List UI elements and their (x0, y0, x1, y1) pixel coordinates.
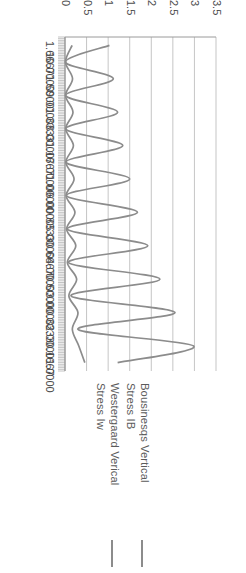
value-tick-label: 2 (146, 0, 158, 32)
value-tick-label: 1.5 (125, 0, 137, 32)
plot-area: 1.00000.16672.00000.33333.00000.50004.00… (0, 0, 246, 377)
value-tick-label: 0.5 (82, 0, 94, 32)
legend-swatch-boussinesq (141, 540, 144, 567)
category-axis-ticks (58, 37, 65, 371)
legend-label-boussinesq-line2: Stress IB (125, 383, 137, 533)
legend-swatch-westergaard (111, 540, 114, 567)
value-tick-label: 3 (189, 0, 201, 32)
plot-svg (0, 0, 246, 377)
legend-label-boussinesq-line1: Bousinesqs Vertical (139, 383, 151, 533)
value-tick-label: 1 (103, 0, 115, 32)
chart-figure: Bousinesqs Vertical Stress IB Westergaar… (0, 0, 246, 573)
legend-label-westergaard-line2: Stress Iw (95, 383, 107, 533)
value-tick-label: 2.5 (168, 0, 180, 32)
value-tick-label: 3.5 (211, 0, 223, 32)
value-tick-label: 0 (60, 0, 72, 32)
chart-legend: Bousinesqs Vertical Stress IB Westergaar… (0, 377, 246, 573)
category-tick-label: 1.6667 (44, 15, 56, 75)
legend-label-westergaard-line1: Westergaard Verical (109, 383, 121, 533)
